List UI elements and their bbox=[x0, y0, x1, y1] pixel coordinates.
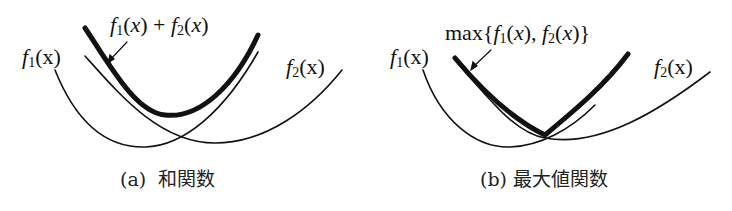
label-f1-b: f1(x) bbox=[390, 46, 429, 70]
caption-a: (a) 和関数 bbox=[120, 170, 215, 189]
label-max-b: max{f1(x), f2(x)} bbox=[445, 22, 590, 46]
caption-b: (b) 最大値関数 bbox=[480, 170, 608, 189]
label-f1-a: f1(x) bbox=[22, 46, 61, 70]
max-curve-b bbox=[455, 54, 628, 135]
sum-curve-a bbox=[85, 28, 258, 115]
f1-curve-a bbox=[55, 52, 258, 147]
f1-curve-b bbox=[423, 70, 595, 147]
label-f2-a: f2(x) bbox=[286, 56, 325, 80]
panel-a-plot bbox=[55, 28, 342, 147]
label-sum-a: f1(x) + f2(x) bbox=[110, 14, 209, 38]
label-f2-b: f2(x) bbox=[654, 56, 693, 80]
pointer-arrowhead-b bbox=[471, 62, 477, 70]
